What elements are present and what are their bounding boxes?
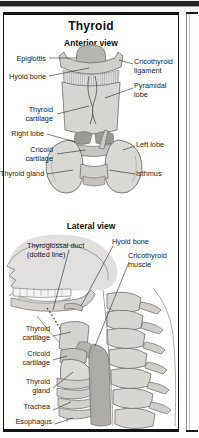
label-hyoid-bone: Hyoid bone	[0, 73, 46, 82]
label-thyroid-gland-lateral: Thyroid gland	[2, 378, 50, 395]
label-epiglottis: Epiglottis	[2, 55, 46, 64]
adjacent-page-rule-top	[186, 12, 198, 14]
label-esophagus: Esophagus	[0, 418, 52, 427]
label-thyroid-cartilage-lateral: Thyroid cartilage	[2, 325, 50, 342]
label-thyroglossal-duct: Thyroglossal duct (dotted line)	[27, 242, 109, 259]
scan-edge-band-top	[0, 0, 199, 7]
label-cricothyroid-ligament: Cricothyroid ligament	[134, 58, 182, 75]
label-right-lobe: Right lobe	[0, 130, 44, 139]
adjacent-page-edge	[186, 12, 187, 432]
label-isthmus: Isthmus	[136, 170, 180, 179]
adjacent-page-rule-bottom	[186, 430, 198, 432]
adjacent-page-edge-shadow	[189, 12, 190, 432]
label-pyramidal-lobe: Pyramidal lobe	[134, 82, 178, 99]
label-left-lobe: Left lobe	[136, 141, 180, 150]
label-trachea: Trachea	[2, 403, 50, 412]
label-thyroid-gland: Thyroid gland	[0, 170, 44, 179]
scanned-page: Thyroid Anterior view	[0, 0, 199, 438]
anterior-anatomy-shapes	[46, 45, 142, 193]
label-cricothyroid-muscle: Cricothyroid muscle	[128, 252, 180, 269]
label-cricoid-cartilage-lateral: Cricoid cartilage	[2, 350, 50, 367]
figure-frame-top-rule	[3, 12, 179, 15]
label-thyroid-cartilage: Thyroid cartilage	[6, 106, 53, 123]
label-cricoid-cartilage: Cricoid cartilage	[6, 146, 53, 163]
label-hyoid-bone-lateral: Hyoid bone	[112, 238, 168, 247]
lateral-view-heading: Lateral view	[3, 221, 179, 231]
